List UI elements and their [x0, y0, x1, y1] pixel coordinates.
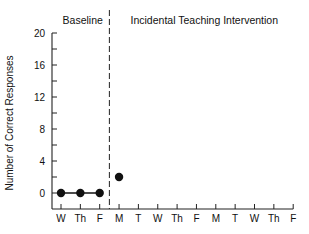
phase-labels: BaselineIncidental Teaching Intervention — [63, 14, 279, 26]
data-point — [96, 189, 104, 197]
chart: BaselineIncidental Teaching Intervention… — [0, 0, 309, 234]
y-tick-label: 16 — [34, 60, 46, 71]
data-series — [57, 173, 123, 197]
x-tick-label: W — [153, 213, 163, 224]
y-tick-label: 4 — [39, 156, 45, 167]
axes — [52, 33, 293, 209]
x-tick-label: T — [232, 213, 238, 224]
y-axis-label: Number of Correct Responses — [4, 55, 15, 190]
x-tick-label: W — [250, 213, 260, 224]
x-tick-label: F — [193, 213, 199, 224]
x-tick-label: M — [212, 213, 220, 224]
x-tick-label: W — [56, 213, 66, 224]
y-tick-label: 8 — [39, 124, 45, 135]
phase-label-baseline: Baseline — [63, 14, 103, 26]
x-tick-label: F — [97, 213, 103, 224]
x-tick-label: Th — [268, 213, 280, 224]
y-tick-label: 20 — [34, 28, 46, 39]
x-tick-label: F — [290, 213, 296, 224]
data-point — [76, 189, 84, 197]
x-tick-label: M — [115, 213, 123, 224]
x-tick-label: Th — [171, 213, 183, 224]
x-tick-label: Th — [75, 213, 87, 224]
x-tick-label: T — [135, 213, 141, 224]
data-point — [57, 189, 65, 197]
data-point — [115, 173, 123, 181]
phase-label-intervention: Incidental Teaching Intervention — [131, 14, 279, 26]
y-tick-label: 12 — [34, 92, 46, 103]
y-axis-ticks: 048121620 — [34, 28, 57, 199]
x-axis-ticks: WThFMTWThFMTWThF — [56, 204, 296, 224]
y-tick-label: 0 — [39, 188, 45, 199]
